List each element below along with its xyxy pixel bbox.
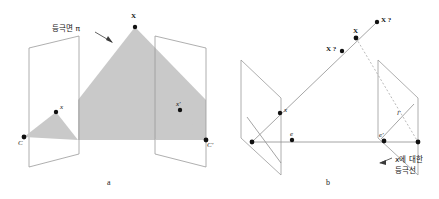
- label-x-b: x: [284, 107, 287, 114]
- label-Cprime-a: C′: [207, 142, 213, 149]
- point-X-a: [133, 25, 137, 29]
- viewing-ray-right-b: [356, 38, 418, 142]
- camera-center-right-b: [416, 140, 421, 145]
- epipolar-plane-label: 등극면 π: [52, 24, 80, 33]
- caption-b: b: [326, 178, 330, 187]
- left-camera-triangle-a: [24, 112, 78, 140]
- label-C-a: C: [18, 140, 23, 147]
- caption-a: a: [107, 178, 111, 187]
- epipolar-line-annotation-line1: x에 대한: [395, 155, 423, 164]
- label-e-b: e: [290, 131, 293, 138]
- label-X-far-b: X ?: [381, 17, 391, 24]
- label-X-near-b: X ?: [326, 46, 336, 53]
- label-X-b: X: [353, 28, 358, 35]
- point-X-far-b: [375, 20, 379, 24]
- label-eprime-b: e′: [379, 132, 384, 139]
- point-x-a: [54, 110, 58, 114]
- figure-root: 등극면 π X x C x′ C′ a X ? X X ? x e e′ l′ …: [0, 0, 439, 199]
- panel-b-graphics: [241, 20, 420, 175]
- label-xprime-a: x′: [176, 101, 181, 108]
- left-image-plane-a: [29, 36, 79, 167]
- label-lprime-b: l′: [397, 110, 400, 117]
- label-X-a: X: [131, 13, 136, 20]
- point-X-b: [354, 36, 359, 41]
- point-x-b: [278, 111, 282, 115]
- camera-center-left-b: [250, 140, 255, 145]
- point-X-near-b: [340, 49, 344, 53]
- epipolar-line-annotation-line2: 등극선: [395, 166, 416, 175]
- point-e-b: [290, 138, 294, 142]
- epipolar-line-annotation-arrowhead: [379, 160, 386, 165]
- label-x-a: x: [60, 104, 63, 111]
- plane-annotation-arrowhead: [106, 36, 113, 43]
- panel-a-graphics: [22, 25, 209, 167]
- viewing-ray-left-b: [252, 22, 377, 142]
- point-xprime-a: [178, 108, 182, 112]
